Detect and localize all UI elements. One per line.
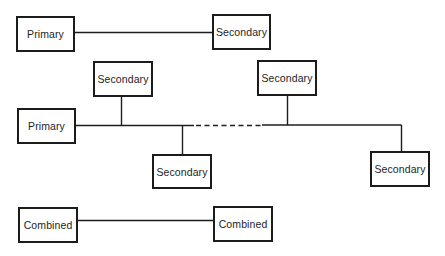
row3-combined-left-node: Combined [18, 207, 78, 243]
node-label: Secondary [97, 73, 148, 85]
row2-primary-node: Primary [17, 108, 76, 144]
node-label: Secondary [261, 72, 312, 84]
node-label: Primary [27, 28, 64, 40]
diagram-canvas: Primary Secondary Secondary Primary Seco… [0, 0, 445, 256]
node-label: Combined [219, 218, 268, 230]
node-label: Secondary [216, 26, 267, 38]
node-label: Primary [28, 120, 65, 132]
node-label: Secondary [374, 163, 425, 175]
row3-combined-right-node: Combined [213, 206, 273, 242]
row2-secondary-top-right-node: Secondary [257, 60, 317, 96]
node-label: Combined [24, 219, 73, 231]
row2-secondary-top-left-node: Secondary [93, 61, 153, 97]
row1-primary-node: Primary [16, 16, 75, 52]
row2-secondary-bottom-left-node: Secondary [152, 154, 212, 189]
node-label: Secondary [156, 166, 207, 178]
row2-secondary-bottom-right-node: Secondary [370, 151, 430, 187]
row1-secondary-node: Secondary [212, 14, 271, 50]
